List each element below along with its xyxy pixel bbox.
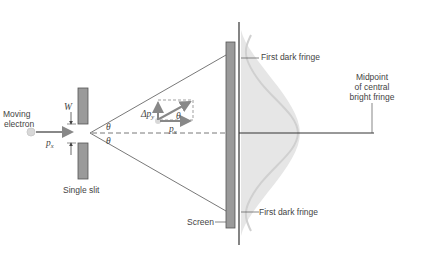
electron-icon xyxy=(27,128,35,136)
diffraction-diagram: W px Moving electron θ θ Single slit Δpy… xyxy=(0,0,427,255)
first-dark-fringe-bottom-label: First dark fringe xyxy=(259,207,318,217)
screen-bar xyxy=(226,42,235,228)
theta-upper-label: θ xyxy=(106,122,111,132)
px-left-label: px xyxy=(45,138,54,149)
theta-lower-label: θ xyxy=(106,136,111,146)
midpoint-label-2: of central xyxy=(355,82,390,92)
midpoint-label-1: Midpoint xyxy=(356,72,389,82)
slit-lower-bar xyxy=(78,143,88,179)
moving-electron-label-2: electron xyxy=(4,119,35,129)
screen-label: Screen xyxy=(187,217,214,227)
first-dark-fringe-top-label: First dark fringe xyxy=(261,52,320,62)
single-slit-label: Single slit xyxy=(63,185,100,195)
width-label: W xyxy=(64,102,73,112)
px-vector-label: px xyxy=(168,124,177,135)
theta-vector-label: θ xyxy=(176,111,181,121)
slit-upper-bar xyxy=(78,88,88,124)
delta-py-label: Δpy xyxy=(140,109,154,120)
resultant-arrow xyxy=(159,102,190,119)
moving-electron-label-1: Moving xyxy=(3,109,31,119)
midpoint-label-3: bright fringe xyxy=(350,92,395,102)
